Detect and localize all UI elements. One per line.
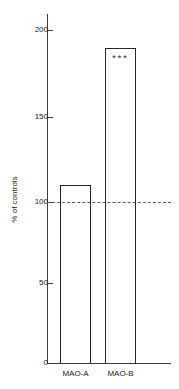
x-axis-label-mao-b: MAO-B bbox=[95, 369, 146, 378]
bar-mao-b bbox=[105, 48, 136, 364]
y-tick-label-0: 0 bbox=[8, 359, 48, 367]
y-tick-mark-50 bbox=[48, 283, 53, 284]
y-tick-mark-150 bbox=[48, 117, 53, 118]
y-tick-mark-200 bbox=[48, 30, 53, 31]
x-axis-label-mao-a: MAO-A bbox=[50, 369, 101, 378]
y-tick-label-50: 50 bbox=[8, 279, 48, 287]
y-axis-line bbox=[47, 14, 48, 364]
y-tick-label-200: 200 bbox=[8, 26, 48, 34]
significance-markers-mao-b: *** bbox=[105, 54, 136, 63]
y-tick-label-100: 100 bbox=[8, 198, 48, 206]
bar-chart-figure: % of controls 200 150 100 50 0 *** MAO-A… bbox=[0, 0, 179, 389]
bar-mao-a bbox=[60, 185, 91, 364]
y-tick-label-150: 150 bbox=[8, 113, 48, 121]
